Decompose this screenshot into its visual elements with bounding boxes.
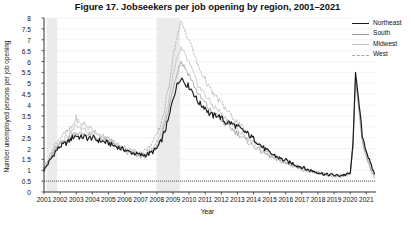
y-tick-label: 5.5 bbox=[22, 69, 31, 76]
y-tick-label: 5 bbox=[27, 80, 31, 87]
x-tick-label: 2014 bbox=[246, 196, 261, 203]
x-tick-label: 2020 bbox=[343, 196, 358, 203]
x-tick-label: 2015 bbox=[262, 196, 277, 203]
x-tick-label: 2001 bbox=[37, 196, 52, 203]
x-tick-label: 2011 bbox=[198, 196, 212, 203]
chart-title: Figure 17. Jobseekers per job opening by… bbox=[0, 1, 415, 12]
x-tick-label: 2013 bbox=[230, 196, 245, 203]
y-tick-label: 0.5 bbox=[22, 178, 31, 185]
figure-container: Figure 17. Jobseekers per job opening by… bbox=[0, 0, 415, 232]
legend-swatch-icon bbox=[352, 31, 369, 37]
series-line-south bbox=[44, 61, 374, 178]
x-tick-label: 2006 bbox=[117, 196, 132, 203]
legend-swatch-icon bbox=[352, 52, 369, 58]
y-tick-label: 6 bbox=[27, 58, 31, 65]
legend-swatch-icon bbox=[352, 41, 369, 47]
legend-item-midwest[interactable]: Midwest bbox=[352, 39, 414, 50]
y-tick-label: 6.5 bbox=[22, 47, 31, 54]
legend-item-south[interactable]: South bbox=[352, 29, 414, 40]
x-tick-label: 2017 bbox=[295, 196, 310, 203]
legend-label: Northeast bbox=[373, 20, 402, 27]
y-tick-label: 1.5 bbox=[22, 156, 31, 163]
plot-area bbox=[44, 18, 376, 192]
y-tick-label: 7 bbox=[27, 36, 31, 43]
x-tick-label: 2010 bbox=[182, 196, 197, 203]
legend-label: Midwest bbox=[373, 41, 397, 48]
legend-label: West bbox=[373, 51, 388, 58]
x-axis-tick-labels: 2001200220032004200520062007200820092010… bbox=[0, 196, 415, 208]
x-tick-label: 2002 bbox=[53, 196, 68, 203]
y-tick-label: 3 bbox=[27, 123, 31, 130]
legend-item-west[interactable]: West bbox=[352, 50, 414, 61]
y-tick-label: 1 bbox=[27, 167, 31, 174]
x-tick-label: 2016 bbox=[278, 196, 293, 203]
x-tick-label: 2004 bbox=[85, 196, 100, 203]
series-line-northeast bbox=[44, 72, 374, 176]
legend-swatch-icon bbox=[352, 20, 369, 26]
x-tick-label: 2008 bbox=[149, 196, 164, 203]
x-tick-label: 2005 bbox=[101, 196, 116, 203]
x-tick-label: 2012 bbox=[214, 196, 229, 203]
y-tick-label: 7.5 bbox=[22, 25, 31, 32]
y-tick-label: 8 bbox=[27, 15, 31, 22]
series-line-midwest bbox=[44, 47, 374, 177]
legend-label: South bbox=[373, 30, 390, 37]
x-tick-label: 2009 bbox=[166, 196, 181, 203]
y-tick-label: 4 bbox=[27, 102, 31, 109]
y-tick-label: 3.5 bbox=[22, 112, 31, 119]
chart-svg bbox=[44, 18, 376, 192]
y-tick-label: 0 bbox=[27, 189, 31, 196]
y-tick-label: 4.5 bbox=[22, 91, 31, 98]
y-tick-label: 2.5 bbox=[22, 134, 31, 141]
y-axis-tick-labels: 00.511.522.533.544.555.566.577.58 bbox=[0, 18, 40, 192]
y-tick-label: 2 bbox=[27, 145, 31, 152]
x-tick-label: 2003 bbox=[69, 196, 84, 203]
legend-item-northeast[interactable]: Northeast bbox=[352, 18, 414, 29]
x-tick-label: 2019 bbox=[327, 196, 342, 203]
x-tick-label: 2018 bbox=[311, 196, 326, 203]
x-tick-label: 2021 bbox=[359, 196, 374, 203]
chart-legend: NortheastSouthMidwestWest bbox=[352, 18, 414, 60]
x-tick-label: 2007 bbox=[133, 196, 148, 203]
x-axis-title: Year bbox=[0, 208, 415, 215]
